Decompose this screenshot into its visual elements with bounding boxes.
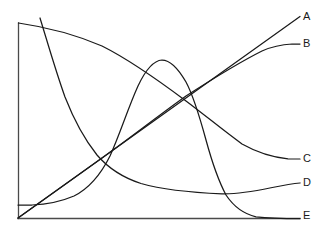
series-end-label-e: E (303, 210, 311, 221)
line-chart-figure: A B C D E (0, 0, 326, 234)
series-end-label-a: A (303, 11, 311, 22)
plot-canvas (0, 0, 326, 234)
series-curve-b (18, 44, 300, 218)
series-end-label-b: B (303, 38, 311, 49)
series-end-label-d: D (303, 177, 311, 188)
series-curve-c (19, 23, 301, 159)
series-end-label-c: C (303, 153, 311, 164)
